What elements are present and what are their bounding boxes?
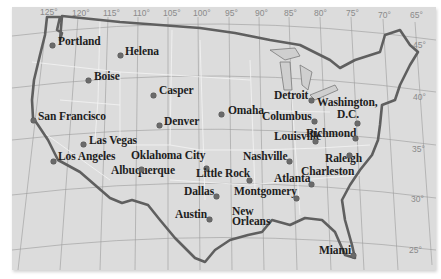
city-marker-icon (313, 139, 318, 144)
city-label: Atlanta (274, 172, 310, 184)
city-label: Las Vegas (89, 134, 137, 146)
city-label: Montgomery (234, 185, 297, 197)
city-marker-icon (81, 142, 86, 147)
latitude-tick: 40° (413, 92, 426, 102)
city-label: Los Angeles (58, 150, 115, 162)
longitude-tick: 120° (72, 8, 90, 18)
longitude-tick: 80° (314, 8, 327, 18)
city-marker-icon (287, 159, 292, 164)
longitude-tick: 95° (225, 8, 238, 18)
city-marker-icon (50, 43, 55, 48)
city-label: Helena (125, 45, 159, 57)
city-marker-icon (219, 112, 224, 117)
city-marker-icon (157, 123, 162, 128)
city-label: Raleigh (325, 152, 362, 164)
latitude-tick: 35° (412, 144, 425, 154)
city-label: Little Rock (196, 167, 250, 179)
city-label: Washington, (317, 96, 378, 108)
city-label: Orleans (232, 215, 270, 227)
longitude-tick: 90° (255, 8, 268, 18)
city-label: Austin (175, 208, 207, 220)
city-marker-icon (207, 217, 212, 222)
city-label: Columbus (262, 110, 312, 122)
city-marker-icon (214, 194, 219, 199)
city-marker-icon (139, 167, 144, 172)
city-label: Boise (94, 70, 120, 82)
longitude-tick: 125° (40, 7, 58, 17)
city-label: Detroit (274, 89, 308, 101)
city-marker-icon (355, 121, 360, 126)
city-marker-icon (309, 98, 314, 103)
city-marker-icon (31, 118, 36, 123)
longitude-tick: 85° (284, 8, 297, 18)
city-label: Denver (164, 115, 199, 127)
city-label: Portland (58, 35, 101, 47)
city-label: Oklahoma City (131, 149, 205, 161)
city-marker-icon (51, 159, 56, 164)
city-marker-icon (86, 78, 91, 83)
longitude-tick: 70° (378, 10, 391, 20)
longitude-tick: 100° (193, 8, 211, 18)
city-label: San Francisco (38, 110, 106, 122)
city-marker-icon (347, 153, 352, 158)
city-label: Casper (159, 84, 194, 96)
city-marker-icon (247, 178, 252, 183)
longitude-tick: 110° (133, 8, 150, 18)
city-label: Miami (319, 244, 351, 256)
city-label: Nashville (243, 150, 287, 162)
city-label: Dallas (184, 185, 214, 197)
city-marker-icon (312, 119, 317, 124)
city-marker-icon (353, 136, 358, 141)
city-marker-icon (118, 53, 123, 58)
longitude-tick: 105° (163, 8, 181, 18)
longitude-tick: 75° (346, 8, 359, 18)
city-marker-icon (294, 196, 299, 201)
city-marker-icon (309, 182, 314, 187)
city-marker-icon (151, 93, 156, 98)
latitude-tick: 45° (413, 40, 426, 50)
city-label: D.C. (337, 108, 359, 120)
city-label: Omaha (228, 104, 264, 116)
city-marker-icon (351, 253, 356, 258)
latitude-tick: 25° (409, 245, 422, 255)
longitude-tick: 65° (410, 10, 423, 20)
latitude-tick: 30° (411, 194, 424, 204)
longitude-tick: 115° (103, 8, 120, 18)
